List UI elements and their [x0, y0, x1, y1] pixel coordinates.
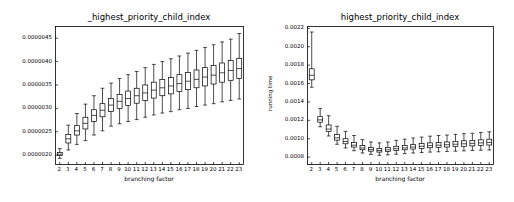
- figure-canvas: _highest_priority_child_index branching …: [0, 0, 514, 202]
- box-plot-item: [461, 134, 466, 151]
- left-y-tick-label: 0.0000040: [7, 58, 52, 64]
- box-plot-item: [360, 140, 365, 153]
- box-plot-item: [126, 75, 131, 122]
- box-plot-item: [117, 78, 122, 123]
- right-y-tick-label: 0.0010: [259, 135, 304, 141]
- right-x-axis-label: branching factor: [307, 175, 493, 182]
- box-plot-item: [160, 62, 165, 113]
- box-plot-item: [478, 132, 483, 150]
- box-plot-item: [385, 142, 390, 155]
- right-y-tick-label: 0.0022: [259, 24, 304, 30]
- right-y-tick-label: 0.0020: [259, 43, 304, 49]
- left-y-tick-label: 0.0000030: [7, 104, 52, 110]
- box-plot-item: [309, 32, 314, 87]
- box-plot-item: [151, 64, 156, 115]
- box-plot-item: [445, 135, 450, 151]
- box-plot-item: [74, 114, 79, 145]
- box-plot-item: [185, 53, 190, 108]
- left-x-tick-label: 23: [232, 166, 246, 172]
- box-plot-item: [335, 126, 340, 144]
- box-plot-item: [66, 125, 71, 150]
- box-plot-item: [134, 71, 139, 119]
- box-plot-item: [428, 136, 433, 152]
- box-plot-item: [436, 136, 441, 152]
- box-plot-item: [368, 142, 373, 154]
- box-plot-item: [411, 138, 416, 153]
- right-plot-area: [307, 26, 494, 165]
- left-y-tick-label: 0.0000025: [7, 128, 52, 134]
- right-y-tick-label: 0.0012: [259, 116, 304, 122]
- box-plot-item: [487, 132, 492, 150]
- left-y-tick-label: 0.0000020: [7, 151, 52, 157]
- box-plot-item: [91, 96, 96, 135]
- right-chart-title: highest_priority_child_index: [307, 12, 493, 22]
- right-x-tick-label: 23: [482, 166, 496, 172]
- left-y-tick-label: 0.0000045: [7, 34, 52, 40]
- box-plot-item: [470, 133, 475, 150]
- left-chart-panel: _highest_priority_child_index branching …: [0, 0, 257, 202]
- box-plot-item: [143, 68, 148, 118]
- left-x-axis-label: branching factor: [55, 175, 243, 182]
- box-plot-item: [377, 143, 382, 155]
- right-y-tick-label: 0.0018: [259, 61, 304, 67]
- box-plot-item: [326, 116, 331, 136]
- box-plot-item: [220, 42, 225, 102]
- box-plot-item: [402, 139, 407, 153]
- box-plot-item: [228, 39, 233, 100]
- box-plot-item: [343, 131, 348, 148]
- box-plot-item: [83, 104, 88, 140]
- box-plot-item: [211, 45, 216, 104]
- left-plot-area: [55, 26, 244, 165]
- box-plot-item: [203, 48, 208, 106]
- box-plot-item: [419, 137, 424, 152]
- box-plot-item: [194, 50, 199, 106]
- box-plot-item: [352, 136, 357, 151]
- right-y-tick-label: 0.0014: [259, 98, 304, 104]
- right-chart-panel: highest_priority_child_index branching f…: [257, 0, 514, 202]
- box-plot-item: [453, 134, 458, 151]
- box-plot-item: [57, 149, 62, 159]
- box-plot-item: [100, 88, 105, 131]
- box-plot-item: [394, 140, 399, 154]
- right-y-tick-label: 0.0016: [259, 80, 304, 86]
- right-y-tick-label: 0.0008: [259, 153, 304, 159]
- box-plot-item: [318, 108, 323, 126]
- box-plot-item: [168, 59, 173, 112]
- box-plot-item: [177, 56, 182, 110]
- left-chart-title: _highest_priority_child_index: [55, 12, 243, 22]
- box-plot-item: [109, 83, 114, 126]
- box-plot-item: [237, 34, 242, 99]
- left-y-tick-label: 0.0000035: [7, 81, 52, 87]
